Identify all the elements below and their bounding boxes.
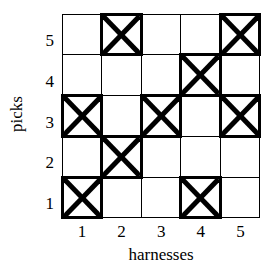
x-mark-icon (182, 179, 219, 217)
grid-cell-empty[interactable] (101, 54, 142, 96)
x-mark-icon (222, 97, 259, 135)
grid-cell-empty[interactable] (62, 14, 103, 56)
y-axis-tick-label: 5 (34, 31, 54, 51)
grid-cell-marked[interactable] (140, 94, 183, 138)
y-axis-tick-label: 2 (34, 153, 54, 173)
grid-cell-empty[interactable] (180, 136, 221, 178)
y-axis-tick-label: 3 (34, 113, 54, 133)
x-mark-icon (222, 16, 259, 54)
y-axis-title: picks (6, 84, 28, 144)
grid-cell-marked[interactable] (61, 176, 104, 220)
grid-cell-marked[interactable] (219, 94, 262, 138)
x-axis-tick-label: 2 (102, 222, 142, 242)
y-axis-tick-label: 4 (34, 72, 54, 92)
y-axis-tick-label: 1 (34, 194, 54, 214)
grid-cell-empty[interactable] (62, 136, 103, 178)
grid-cell-marked[interactable] (100, 135, 143, 179)
grid-cell-empty[interactable] (141, 177, 182, 219)
grid-cell-empty[interactable] (101, 177, 142, 219)
grid-cell-empty[interactable] (62, 54, 103, 96)
x-axis-title: harnesses (62, 244, 260, 266)
x-mark-icon (103, 16, 140, 54)
grid-cell-marked[interactable] (100, 13, 143, 57)
grid-cell-empty[interactable] (220, 54, 261, 96)
grid-cell-empty[interactable] (220, 136, 261, 178)
grid-cell-empty[interactable] (141, 54, 182, 96)
x-axis-tick-label: 3 (141, 222, 181, 242)
x-mark-icon (64, 97, 101, 135)
x-axis-tick-label: 1 (62, 222, 102, 242)
grid-cell-marked[interactable] (179, 53, 222, 97)
grid-cell-empty[interactable] (180, 95, 221, 137)
grid-cell-marked[interactable] (219, 13, 262, 57)
grid-cell-empty[interactable] (220, 177, 261, 219)
grid-cell-empty[interactable] (141, 136, 182, 178)
x-mark-icon (103, 138, 140, 176)
x-mark-icon (182, 56, 219, 94)
grid-cell-marked[interactable] (61, 94, 104, 138)
x-axis-tick-label: 5 (220, 222, 260, 242)
weave-draft-figure: picks 5 4 3 2 1 1 2 3 4 5 harnesses (0, 0, 269, 271)
grid-cell-empty[interactable] (101, 95, 142, 137)
grid-cell-marked[interactable] (179, 176, 222, 220)
grid-cell-empty[interactable] (141, 14, 182, 56)
x-axis-tick-label: 4 (181, 222, 221, 242)
x-mark-icon (64, 179, 101, 217)
x-mark-icon (143, 97, 180, 135)
grid-cell-empty[interactable] (180, 14, 221, 56)
weave-grid (62, 14, 260, 218)
